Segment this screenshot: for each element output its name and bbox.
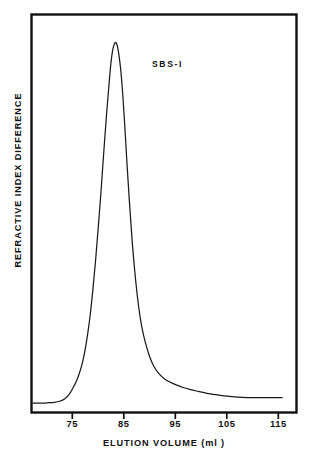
x-tick-label-105: 105 — [218, 418, 235, 429]
chromatogram-figure: REFRACTIVE INDEX DIFFERENCE 75 85 95 105… — [0, 0, 313, 466]
elution-curve — [32, 42, 283, 403]
x-tick-label-95: 95 — [170, 418, 181, 429]
plot-area — [0, 0, 313, 466]
x-tick-label-115: 115 — [270, 418, 287, 429]
plot-frame — [32, 15, 297, 413]
x-axis-label: ELUTION VOLUME (ml ) — [31, 438, 297, 448]
series-annotation-label: SBS-I — [152, 59, 183, 69]
x-tick-label-75: 75 — [67, 418, 78, 429]
x-tick-label-85: 85 — [118, 418, 129, 429]
